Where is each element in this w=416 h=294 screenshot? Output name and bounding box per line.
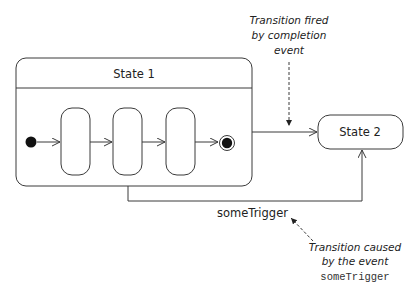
substate-2[interactable] (113, 108, 142, 175)
completion-annotation: Transition fired by completion event (249, 14, 328, 56)
state-2-label: State 2 (339, 125, 380, 139)
event-annotation: Transition caused by the event someTrigg… (309, 241, 402, 283)
svg-text:Transition caused: Transition caused (309, 241, 402, 253)
initial-state-icon (26, 137, 37, 148)
svg-text:event: event (274, 44, 305, 56)
substate-3[interactable] (166, 108, 195, 175)
event-pointer-arrow (291, 218, 313, 241)
svg-text:Transition fired: Transition fired (249, 14, 328, 26)
svg-text:someTrigger: someTrigger (320, 271, 389, 283)
svg-text:by the event: by the event (322, 255, 390, 267)
svg-text:by completion: by completion (252, 29, 327, 41)
substate-1[interactable] (61, 108, 90, 175)
state-machine-diagram: State 1 State 2 someTrigger Transition f… (0, 0, 416, 294)
trigger-label: someTrigger (217, 206, 288, 220)
state-2[interactable]: State 2 (318, 115, 403, 149)
final-state-icon (220, 136, 235, 151)
state-1-label: State 1 (113, 67, 154, 81)
